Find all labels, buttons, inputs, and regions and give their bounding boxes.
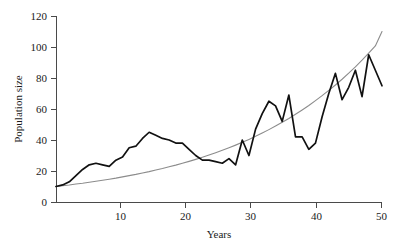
y-tick-label-120: 120 xyxy=(31,10,48,22)
x-tick-label-40: 40 xyxy=(311,210,323,222)
y-tick-label-80: 80 xyxy=(36,72,48,84)
y-axis-title: Population size xyxy=(12,75,24,143)
x-tick-label-10: 10 xyxy=(115,210,127,222)
y-tick-label-0: 0 xyxy=(42,196,48,208)
y-tick-label-20: 20 xyxy=(36,165,48,177)
y-tick-label-100: 100 xyxy=(31,41,48,53)
x-tick-label-20: 20 xyxy=(180,210,192,222)
y-tick-label-40: 40 xyxy=(36,134,48,146)
x-tick-label-50: 50 xyxy=(376,210,388,222)
population-line-chart: 0 20 40 60 80 100 120 10 20 30 40 50 Yea… xyxy=(0,0,411,251)
x-axis-title: Years xyxy=(207,228,232,240)
chart-background xyxy=(0,0,411,251)
x-tick-label-30: 30 xyxy=(245,210,257,222)
y-tick-label-60: 60 xyxy=(36,103,48,115)
chart-figure: 0 20 40 60 80 100 120 10 20 30 40 50 Yea… xyxy=(0,0,411,251)
